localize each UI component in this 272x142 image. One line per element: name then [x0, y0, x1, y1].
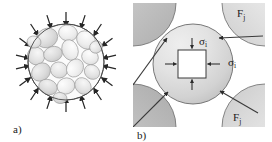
load-arrow [16, 66, 30, 69]
load-arrow [20, 78, 31, 86]
panel-b-caption: b) [137, 129, 147, 142]
load-arrow [102, 55, 116, 58]
panel-a-caption: a) [13, 123, 22, 136]
figure-canvas: a) [0, 0, 272, 142]
load-arrow [31, 24, 39, 36]
load-arrow [94, 24, 102, 36]
figure-root: a) [0, 0, 272, 142]
load-arrow [31, 88, 39, 100]
panel-a: a) [13, 12, 116, 136]
load-arrow [94, 88, 102, 100]
panel-b: σi σi Fj Fj b) [90, 0, 272, 142]
stress-element [178, 50, 206, 78]
load-arrow [101, 38, 112, 46]
load-arrow [101, 78, 112, 86]
load-arrow [102, 66, 116, 69]
